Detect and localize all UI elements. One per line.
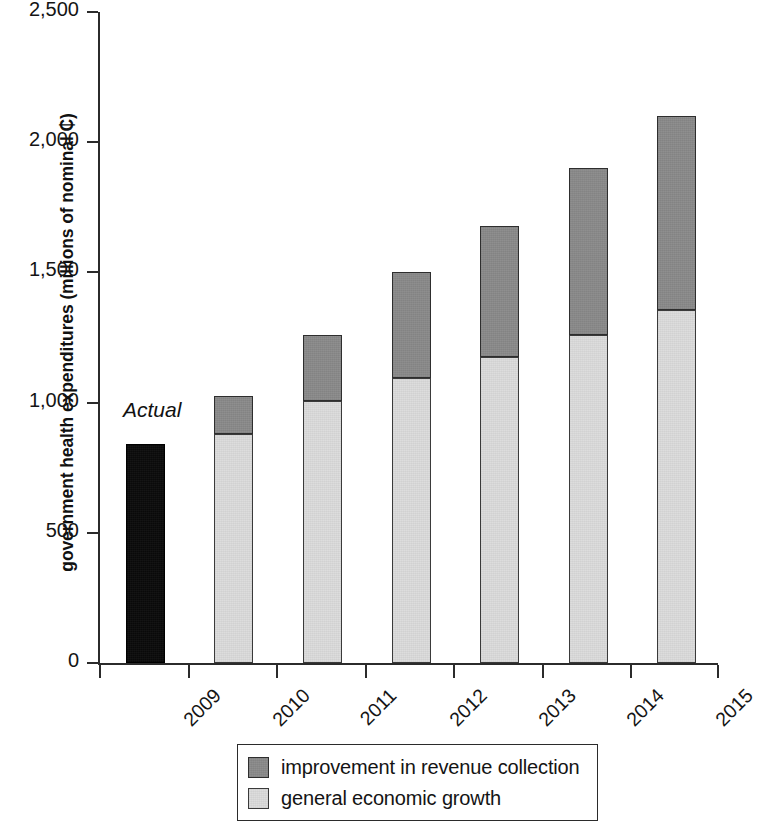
legend-item-revenue: improvement in revenue collection [248, 752, 587, 783]
x-tick-label-2009: 2009 [179, 684, 226, 731]
x-tick-2009 [99, 665, 101, 678]
bar-2012 [392, 12, 431, 663]
y-tick-label-2000: 2,000 [0, 128, 79, 151]
bar-segment-revenue-2012 [392, 272, 431, 377]
bar-2011 [303, 12, 342, 663]
y-axis-line [98, 12, 100, 664]
bar-segment-revenue-2011 [303, 335, 342, 401]
legend-label-revenue: improvement in revenue collection [281, 756, 580, 779]
bar-2014 [569, 12, 608, 663]
x-tick-label-2012: 2012 [445, 684, 492, 731]
bar-2015 [657, 12, 696, 663]
x-tick-label-2014: 2014 [622, 684, 669, 731]
bar-segment-revenue-2013 [480, 226, 519, 358]
y-tick-0 [87, 662, 98, 664]
y-tick-2000 [87, 141, 98, 143]
x-tick-2010 [188, 665, 190, 678]
x-tick-2014 [542, 665, 544, 678]
y-tick-2500 [87, 11, 98, 13]
bar-segment-growth-2015 [657, 310, 696, 663]
bar-segment-revenue-2014 [569, 168, 608, 335]
legend-swatch-revenue-icon [248, 757, 269, 778]
y-tick-1000 [87, 402, 98, 404]
actual-annotation: Actual [123, 398, 181, 422]
y-tick-label-1000: 1,000 [0, 389, 79, 412]
bar-segment-revenue-2015 [657, 116, 696, 310]
bar-segment-growth-2013 [480, 357, 519, 663]
x-tick-label-2015: 2015 [710, 684, 757, 731]
bar-2010 [214, 12, 253, 663]
x-tick-2011 [276, 665, 278, 678]
y-tick-label-1500: 1,500 [0, 258, 79, 281]
bar-2009 [126, 12, 165, 663]
y-tick-label-500: 500 [0, 519, 79, 542]
x-tick-label-2011: 2011 [356, 684, 402, 730]
y-axis-title: government health expenditures (millions… [57, 23, 78, 663]
x-tick-2012 [365, 665, 367, 678]
x-tick-label-2010: 2010 [268, 684, 315, 731]
bar-segment-growth-2010 [214, 434, 253, 663]
x-tick-2013 [453, 665, 455, 678]
x-tick-2015 [630, 665, 632, 678]
x-tick-end [717, 665, 719, 678]
bar-segment-growth-2014 [569, 335, 608, 663]
legend-label-growth: general economic growth [281, 787, 501, 810]
chart-legend: improvement in revenue collection genera… [237, 744, 598, 821]
bar-segment-growth-2012 [392, 378, 431, 663]
bar-2013 [480, 12, 519, 663]
bar-segment-revenue-2010 [214, 396, 253, 434]
y-tick-500 [87, 532, 98, 534]
y-tick-label-0: 0 [0, 649, 79, 672]
x-axis-line [98, 663, 718, 665]
bar-segment-actual-2009 [126, 444, 165, 663]
legend-swatch-growth-icon [248, 788, 269, 809]
y-tick-label-2500: 2,500 [0, 0, 79, 21]
legend-item-growth: general economic growth [248, 783, 587, 814]
bar-segment-growth-2011 [303, 401, 342, 663]
y-tick-1500 [87, 271, 98, 273]
plot-area: 2009201020112012201320142015 [98, 12, 718, 663]
x-tick-label-2013: 2013 [533, 684, 580, 731]
